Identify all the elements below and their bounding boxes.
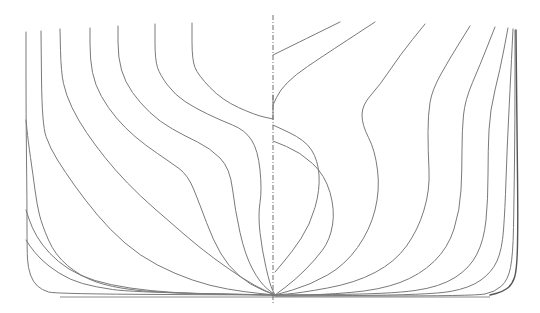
aft-station-line-7 bbox=[90, 28, 275, 295]
fore-station-line-7 bbox=[275, 27, 495, 295]
fore-station-line-10 bbox=[275, 30, 515, 296]
aft-station-line-8 bbox=[118, 26, 275, 295]
body-plan-diagram bbox=[0, 0, 540, 313]
fore-station-line-4 bbox=[273, 141, 333, 295]
aft-body-stations bbox=[26, 23, 275, 295]
fore-station-line-2 bbox=[273, 22, 375, 105]
fore-station-line-11 bbox=[490, 30, 518, 295]
aft-station-line-5 bbox=[41, 31, 275, 295]
aft-station-line-4 bbox=[26, 240, 275, 295]
aft-station-line-9 bbox=[155, 24, 275, 295]
body-plan-svg bbox=[0, 0, 540, 313]
fore-body-stations bbox=[273, 22, 518, 296]
fore-station-line-3 bbox=[273, 125, 319, 272]
aft-station-line-1 bbox=[26, 32, 275, 295]
aft-station-line-2 bbox=[26, 120, 275, 295]
aft-station-line-10 bbox=[192, 23, 273, 119]
fore-station-line-1 bbox=[273, 22, 340, 55]
fore-station-line-5 bbox=[275, 24, 425, 295]
